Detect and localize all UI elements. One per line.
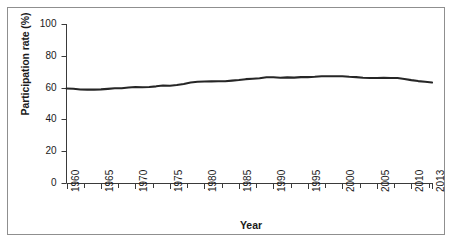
x-tick-label: 2010 <box>415 170 425 192</box>
x-tick-label: 2005 <box>381 170 391 192</box>
x-tick-label: 1965 <box>105 170 115 192</box>
x-tick-label: 1990 <box>277 170 287 192</box>
participation-rate-line-chart <box>0 0 454 248</box>
x-tick-label: 1980 <box>208 170 218 192</box>
data-series-line <box>67 76 433 89</box>
x-tick-label: 1985 <box>243 170 253 192</box>
x-tick-label: 1975 <box>174 170 184 192</box>
y-tick-label: 20 <box>27 146 57 156</box>
y-tick-label: 60 <box>27 83 57 93</box>
x-tick-label: 2013 <box>436 170 446 192</box>
x-tick-label: 1960 <box>71 170 81 192</box>
y-axis-title: Participation rate (%) <box>19 0 31 149</box>
x-tick-label: 2000 <box>346 170 356 192</box>
y-tick-label: 40 <box>27 114 57 124</box>
x-tick-label: 1995 <box>312 170 322 192</box>
y-tick-label: 0 <box>27 178 57 188</box>
y-tick-label: 80 <box>27 51 57 61</box>
figure-root: 020406080100 196019651970197519801985199… <box>0 0 454 248</box>
x-axis-title: Year <box>66 219 436 231</box>
axis-lines <box>67 24 433 184</box>
y-axis-ticks <box>62 25 67 184</box>
x-tick-label: 1970 <box>139 170 149 192</box>
y-tick-label: 100 <box>27 19 57 29</box>
